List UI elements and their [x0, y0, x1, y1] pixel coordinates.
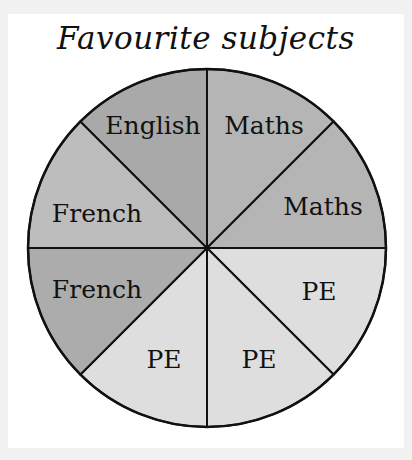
slice-label-pe: PE	[301, 277, 336, 306]
slice-label-pe: PE	[146, 345, 181, 374]
slice-label-french: French	[52, 199, 142, 228]
pie-chart: MathsMathsPEPEPEFrenchFrenchEnglish	[0, 0, 412, 460]
slice-label-english: English	[105, 111, 200, 140]
slice-label-french: French	[52, 275, 142, 304]
slice-label-maths: Maths	[283, 192, 362, 221]
slice-label-maths: Maths	[224, 111, 303, 140]
pie-slices	[28, 69, 386, 427]
slice-label-pe: PE	[241, 345, 276, 374]
